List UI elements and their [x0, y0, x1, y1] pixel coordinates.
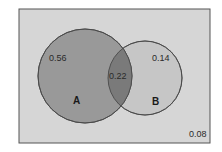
- set-a-label: A: [73, 95, 80, 106]
- intersection-value: 0.22: [109, 71, 127, 81]
- a-only-value: 0.56: [49, 53, 67, 63]
- outside-value: 0.08: [189, 129, 207, 139]
- venn-diagram: 0.56 0.22 0.14 A B 0.08: [0, 0, 222, 152]
- set-b-label: B: [152, 96, 159, 107]
- b-only-value: 0.14: [152, 53, 170, 63]
